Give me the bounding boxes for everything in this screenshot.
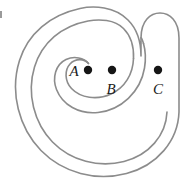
- point-label-c: C: [153, 81, 164, 97]
- point-dot-c: [154, 66, 162, 74]
- point-dot-b: [108, 66, 116, 74]
- spiral-figure-svg: A B C: [0, 0, 193, 179]
- point-label-a: A: [68, 63, 79, 79]
- spiral-inner-path: [31, 20, 167, 164]
- figure-container: A B C: [0, 0, 193, 179]
- point-dot-a: [84, 66, 92, 74]
- spiral-hook-return-path: [55, 44, 146, 113]
- edge-tick-mark: [0, 11, 2, 18]
- point-label-b: B: [106, 81, 115, 97]
